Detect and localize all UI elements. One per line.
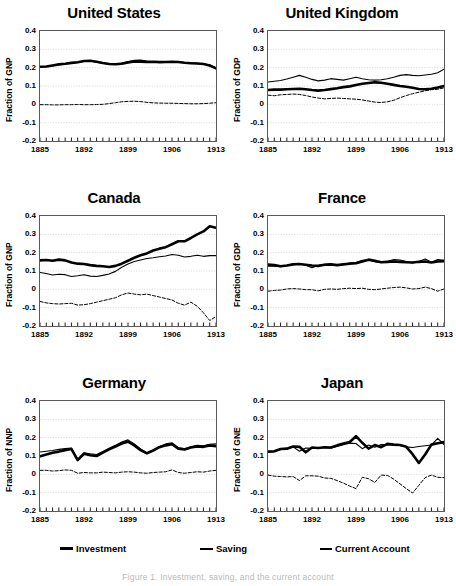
x-tick-label: 1906 <box>163 515 181 524</box>
x-tick-label: 1906 <box>391 515 409 524</box>
y-tick-label: 0.1 <box>25 82 36 90</box>
y-axis-ticks: 0.40.30.20.10-0.1-0.2 <box>14 215 36 327</box>
y-tick-label: 0.3 <box>25 45 36 53</box>
x-tick-label: 1885 <box>259 515 277 524</box>
x-axis-ticks: 18851892189919061913 <box>267 330 445 342</box>
y-tick-label: 0.1 <box>253 267 264 275</box>
x-tick-label: 1885 <box>259 330 277 339</box>
x-tick-label: 1913 <box>435 330 453 339</box>
x-axis-ticks: 18851892189919061913 <box>39 145 217 157</box>
plot-area <box>39 400 217 512</box>
y-axis-ticks: 0.40.30.20.10-0.1-0.2 <box>14 30 36 142</box>
x-tick-label: 1906 <box>163 145 181 154</box>
x-tick-label: 1913 <box>435 515 453 524</box>
y-tick-label: 0.4 <box>25 212 36 220</box>
x-axis-ticks: 18851892189919061913 <box>39 330 217 342</box>
y-axis-ticks: 0.40.30.20.10-0.1-0.2 <box>14 400 36 512</box>
y-tick-label: 0.4 <box>253 27 264 35</box>
y-tick-label: 0.3 <box>253 415 264 423</box>
y-tick-label: -0.1 <box>22 119 36 127</box>
x-tick-label: 1906 <box>163 330 181 339</box>
legend-swatch-investment <box>60 547 73 550</box>
series-line-saving <box>268 438 444 452</box>
panel-title: United Kingdom <box>228 4 456 21</box>
series-line-current-account <box>268 287 444 291</box>
y-tick-label: -0.2 <box>250 507 264 515</box>
x-tick-label: 1913 <box>207 330 225 339</box>
legend-label-investment: Investment <box>76 543 126 554</box>
figure-caption: Figure 1. Investment, saving, and the cu… <box>0 572 456 582</box>
plot-area <box>267 400 445 512</box>
chart-panel-france: FranceFraction of GDP0.40.30.20.10-0.1-0… <box>228 185 456 370</box>
x-tick-label: 1906 <box>391 330 409 339</box>
chart-panel-canada: CanadaFraction of GNP0.40.30.20.10-0.1-0… <box>0 185 228 370</box>
figure-panel-grid: United StatesFraction of GNP0.40.30.20.1… <box>0 0 456 540</box>
series-line-investment <box>40 226 216 267</box>
y-tick-label: 0 <box>32 285 36 293</box>
panel-title: France <box>228 189 456 206</box>
chart-panel-united-kingdom: United KingdomFraction of GDP0.40.30.20.… <box>228 0 456 185</box>
x-tick-label: 1899 <box>347 145 365 154</box>
legend-item-investment: Investment <box>60 543 126 554</box>
legend-item-saving: Saving <box>200 543 247 554</box>
series-line-current-account <box>268 475 444 493</box>
y-tick-label: 0.4 <box>253 397 264 405</box>
plot-area <box>267 30 445 142</box>
x-tick-label: 1892 <box>303 515 321 524</box>
y-tick-label: 0 <box>260 285 264 293</box>
y-tick-label: 0.4 <box>25 27 36 35</box>
y-tick-label: 0.4 <box>253 212 264 220</box>
series-line-current-account <box>40 470 216 473</box>
series-line-investment <box>268 82 444 90</box>
y-tick-label: 0.2 <box>25 434 36 442</box>
y-tick-label: -0.1 <box>250 304 264 312</box>
y-axis-ticks: 0.40.30.20.10-0.1-0.2 <box>242 30 264 142</box>
figure-legend: Investment Saving Current Account <box>0 541 456 563</box>
legend-swatch-saving <box>200 548 213 550</box>
y-tick-label: -0.1 <box>22 304 36 312</box>
series-line-investment <box>268 436 444 463</box>
x-tick-label: 1885 <box>31 515 49 524</box>
y-tick-label: 0 <box>260 100 264 108</box>
legend-label-saving: Saving <box>216 543 247 554</box>
y-tick-label: -0.1 <box>250 119 264 127</box>
y-tick-label: -0.1 <box>250 489 264 497</box>
series-line-current-account <box>40 101 216 105</box>
legend-label-current-account: Current Account <box>335 543 410 554</box>
x-axis-ticks: 18851892189919061913 <box>267 145 445 157</box>
panel-title: Japan <box>228 374 456 391</box>
y-tick-label: -0.2 <box>250 322 264 330</box>
y-tick-label: 0.2 <box>253 64 264 72</box>
x-tick-label: 1885 <box>259 145 277 154</box>
chart-panel-united-states: United StatesFraction of GNP0.40.30.20.1… <box>0 0 228 185</box>
y-tick-label: 0.4 <box>25 397 36 405</box>
series-line-current-account <box>40 293 216 321</box>
chart-panel-germany: GermanyFraction of NNP0.40.30.20.10-0.1-… <box>0 370 228 540</box>
panel-title: United States <box>0 4 228 21</box>
y-tick-label: -0.1 <box>22 489 36 497</box>
x-tick-label: 1913 <box>207 515 225 524</box>
chart-panel-japan: JapanFraction of GNE0.40.30.20.10-0.1-0.… <box>228 370 456 540</box>
y-tick-label: 0.1 <box>25 452 36 460</box>
x-tick-label: 1892 <box>75 330 93 339</box>
y-axis-ticks: 0.40.30.20.10-0.1-0.2 <box>242 215 264 327</box>
y-tick-label: -0.2 <box>22 507 36 515</box>
y-tick-label: 0.3 <box>253 230 264 238</box>
x-tick-label: 1892 <box>303 145 321 154</box>
y-tick-label: -0.2 <box>250 137 264 145</box>
y-tick-label: 0 <box>260 470 264 478</box>
y-tick-label: 0.3 <box>253 45 264 53</box>
y-tick-label: 0 <box>32 100 36 108</box>
series-line-saving <box>40 255 216 277</box>
y-tick-label: 0 <box>32 470 36 478</box>
y-tick-label: 0.1 <box>253 452 264 460</box>
y-tick-label: 0.1 <box>253 82 264 90</box>
x-axis-ticks: 18851892189919061913 <box>39 515 217 527</box>
x-tick-label: 1885 <box>31 330 49 339</box>
x-tick-label: 1899 <box>119 145 137 154</box>
y-tick-label: 0.3 <box>25 230 36 238</box>
plot-area <box>267 215 445 327</box>
y-tick-label: 0.2 <box>253 249 264 257</box>
y-tick-label: 0.2 <box>253 434 264 442</box>
y-axis-ticks: 0.40.30.20.10-0.1-0.2 <box>242 400 264 512</box>
